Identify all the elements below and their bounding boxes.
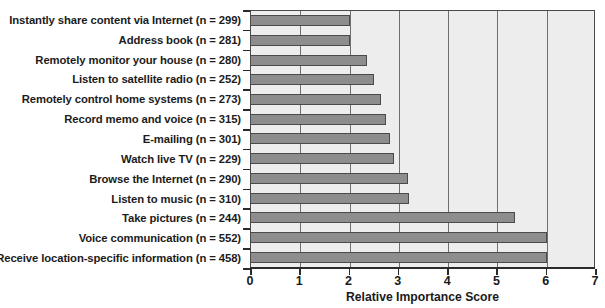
x-axis-line — [250, 267, 595, 269]
category-tick-mark — [243, 169, 250, 171]
category-label: Receive location-specific information (n… — [0, 248, 246, 268]
category-tick-mark — [243, 10, 250, 12]
category-tick-mark — [243, 109, 250, 111]
category-axis-labels: Instantly share content via Internet (n … — [0, 10, 246, 268]
x-tick-label: 6 — [534, 274, 558, 288]
category-label: E-mailing (n = 301) — [0, 129, 246, 149]
bar-row — [251, 11, 594, 31]
category-label: Instantly share content via Internet (n … — [0, 10, 246, 30]
x-tick-label: 7 — [583, 274, 605, 288]
category-tick-mark — [243, 208, 250, 210]
bar-row — [251, 149, 594, 169]
bar-row — [251, 31, 594, 51]
category-label: Voice communication (n = 552) — [0, 228, 246, 248]
category-label: Listen to satellite radio (n = 252) — [0, 70, 246, 90]
bar-row — [251, 129, 594, 149]
bar-row — [251, 169, 594, 189]
x-tick-label: 5 — [484, 274, 508, 288]
bar — [250, 55, 367, 66]
x-tick-label: 0 — [238, 274, 262, 288]
category-label: Browse the Internet (n = 290) — [0, 169, 246, 189]
category-tick-mark — [243, 149, 250, 151]
bar-row — [251, 188, 594, 208]
bar — [250, 232, 547, 243]
category-tick-mark — [243, 248, 250, 250]
bar — [250, 94, 381, 105]
bar — [250, 133, 390, 144]
bars-layer — [251, 11, 594, 267]
x-axis-title: Relative Importance Score — [250, 290, 595, 304]
bar — [250, 173, 408, 184]
bar-row — [251, 228, 594, 248]
category-label: Address book (n = 281) — [0, 30, 246, 50]
bar — [250, 153, 394, 164]
plot-area — [250, 10, 595, 268]
bar-row — [251, 109, 594, 129]
category-tick-mark — [243, 70, 250, 72]
bar — [250, 252, 547, 263]
bar — [250, 15, 350, 26]
bar-row — [251, 247, 594, 267]
category-tick-mark — [243, 89, 250, 91]
category-tick-mark — [243, 129, 250, 131]
category-label: Record memo and voice (n = 315) — [0, 109, 246, 129]
bar-row — [251, 208, 594, 228]
bar — [250, 35, 350, 46]
bar — [250, 114, 386, 125]
category-tick-mark — [243, 189, 250, 191]
category-tick-mark — [243, 50, 250, 52]
category-tick-mark — [243, 228, 250, 230]
x-tick-label: 2 — [337, 274, 361, 288]
category-tick-mark — [243, 30, 250, 32]
x-tick-label: 4 — [435, 274, 459, 288]
x-tick-label: 1 — [287, 274, 311, 288]
x-tick-label: 3 — [386, 274, 410, 288]
bar — [250, 193, 409, 204]
bar — [250, 212, 515, 223]
bar-row — [251, 90, 594, 110]
bar-row — [251, 70, 594, 90]
category-label: Take pictures (n = 244) — [0, 208, 246, 228]
category-label: Remotely monitor your house (n = 280) — [0, 50, 246, 70]
bar-row — [251, 50, 594, 70]
category-tick-mark — [243, 268, 250, 270]
category-label: Watch live TV (n = 229) — [0, 149, 246, 169]
relative-importance-bar-chart: Instantly share content via Internet (n … — [0, 0, 605, 308]
category-label: Remotely control home systems (n = 273) — [0, 89, 246, 109]
bar — [250, 74, 374, 85]
category-label: Listen to music (n = 310) — [0, 189, 246, 209]
